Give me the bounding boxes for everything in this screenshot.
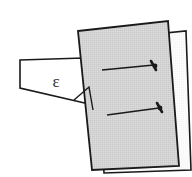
epsilon-angle-label: ε bbox=[52, 72, 59, 91]
technical-drawing: ε bbox=[0, 0, 192, 177]
front-panel-gray bbox=[78, 21, 179, 170]
fastener-lower-tip bbox=[158, 106, 163, 111]
fastener-upper-tip bbox=[153, 64, 158, 69]
figure-container: ε bbox=[0, 0, 192, 177]
